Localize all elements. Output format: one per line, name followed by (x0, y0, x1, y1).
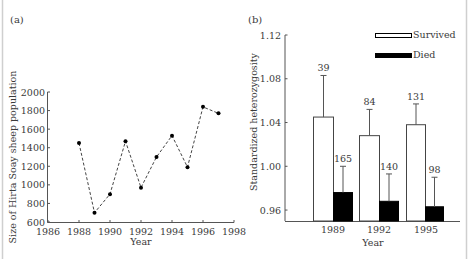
panel-a-population-series (77, 105, 221, 215)
data-point (170, 134, 174, 138)
y-tick-label: 1.08 (260, 73, 281, 84)
legend-swatch-survived (376, 34, 412, 38)
y-tick-label: 1200 (21, 161, 45, 172)
sample-size-label: 98 (428, 164, 440, 175)
x-tick-label: 1995 (414, 224, 438, 235)
sample-size-label: 165 (334, 153, 352, 164)
y-tick-label: 1.12 (260, 30, 281, 41)
panel-a-label: (a) (10, 14, 24, 25)
y-tick-label: 800 (27, 198, 45, 209)
bar-died-1989 (334, 193, 353, 221)
data-point (139, 186, 143, 190)
x-tick-label: 1996 (191, 226, 215, 237)
panel-b-y-axis-title: Standardized heterozygosity (248, 52, 259, 191)
y-tick-label: 2000 (21, 87, 45, 98)
x-tick-label: 1988 (67, 226, 91, 237)
legend-label-survived: Survived (413, 29, 456, 40)
data-point (77, 141, 81, 145)
data-point (108, 192, 112, 196)
panel-a-y-axis-title: Size of Hirta Soay sheep population (7, 71, 18, 244)
panel-b-heterozygosity-chart: (b) 0.961.001.041.081.12 391651989841401… (248, 14, 460, 248)
panel-b-x-axis-title: Year (361, 237, 384, 248)
x-tick-label: 1986 (36, 226, 60, 237)
panel-b-legend: Survived Died (375, 29, 456, 60)
data-point (217, 111, 221, 115)
x-tick-label: 1992 (367, 224, 391, 235)
y-tick-label: 1.00 (260, 161, 281, 172)
panel-a-x-axis-title: Year (129, 236, 152, 247)
y-tick-label: 1400 (21, 142, 45, 153)
x-tick-label: 1994 (160, 226, 184, 237)
bar-survived-1995 (407, 125, 426, 221)
sample-size-label: 131 (407, 91, 425, 102)
data-point (186, 165, 190, 169)
bar-died-1995 (426, 207, 444, 221)
sample-size-label: 140 (380, 161, 398, 172)
x-tick-label: 1989 (321, 224, 345, 235)
y-tick-label: 1600 (21, 124, 45, 135)
y-tick-label: 0.96 (260, 205, 281, 216)
data-point (201, 105, 205, 109)
x-tick-label: 1990 (98, 226, 122, 237)
data-point (93, 211, 97, 215)
y-tick-label: 1.04 (260, 117, 281, 128)
sample-size-label: 84 (363, 96, 375, 107)
population-line (79, 107, 219, 213)
y-tick-label: 1000 (21, 179, 45, 190)
panel-b-label: (b) (248, 14, 262, 25)
panel-b-bars: 391651989841401992131981995 (314, 62, 444, 235)
data-point (155, 155, 159, 159)
legend-label-died: Died (413, 49, 435, 60)
y-tick-label: 1800 (21, 105, 45, 116)
bar-survived-1989 (314, 117, 334, 221)
bar-survived-1992 (360, 136, 380, 221)
bar-died-1992 (380, 201, 399, 221)
panel-a-axes: 6008001000120014001600180020001986198819… (21, 87, 246, 238)
legend-swatch-died (375, 53, 412, 58)
data-point (124, 139, 128, 143)
x-tick-label: 1998 (222, 226, 246, 237)
figure: (a) 600800100012001400160018002000198619… (0, 0, 471, 259)
panel-a-population-chart: (a) 600800100012001400160018002000198619… (7, 14, 246, 247)
sample-size-label: 39 (317, 62, 329, 73)
